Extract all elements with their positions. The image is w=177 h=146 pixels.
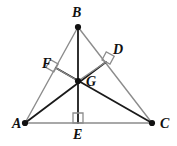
vertex-dot-B — [75, 24, 81, 30]
label-B: B — [71, 5, 81, 20]
label-G: G — [86, 74, 96, 89]
label-D: D — [112, 42, 123, 57]
geometry-figure: A B C D E F G — [0, 0, 177, 146]
side-AB — [25, 27, 78, 123]
altitude-segment-AG — [25, 62, 106, 123]
label-F: F — [41, 56, 52, 71]
altitude-extension-GF — [56, 68, 78, 81]
label-E: E — [72, 127, 82, 142]
label-C: C — [160, 116, 170, 131]
vertex-dot-A — [22, 120, 28, 126]
vertex-dot-C — [149, 120, 155, 126]
vertex-dot-G — [75, 78, 81, 84]
label-A: A — [11, 116, 21, 131]
geometry-canvas: A B C D E F G — [0, 0, 177, 146]
